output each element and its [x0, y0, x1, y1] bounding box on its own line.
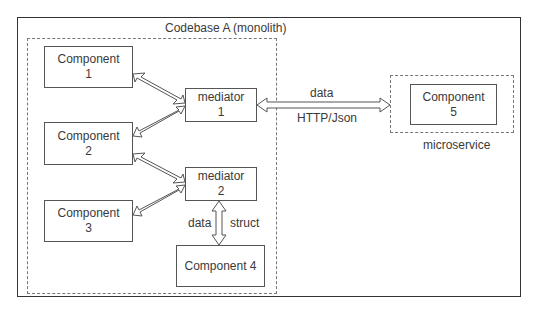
mediator-1[interactable]: mediator 1: [185, 88, 257, 122]
mediator-2-number: 2: [218, 184, 225, 199]
arrow-c2-m2: [133, 153, 185, 183]
http-link-top-label: data: [310, 86, 333, 100]
component-2[interactable]: Component 2: [44, 122, 133, 165]
component-4-name: Component 4: [184, 259, 256, 274]
component-3-name: Component: [57, 206, 119, 221]
mediator-2-name: mediator: [198, 169, 245, 184]
component-2-number: 2: [85, 144, 92, 159]
arrow-m2-c4: [212, 201, 226, 245]
m2-c4-right-label: struct: [230, 216, 259, 230]
component-3[interactable]: Component 3: [44, 200, 133, 242]
m2-c4-left-label: data: [188, 216, 211, 230]
component-5-name: Component: [422, 90, 484, 105]
component-3-number: 3: [85, 221, 92, 236]
component-4[interactable]: Component 4: [176, 245, 265, 287]
mediator-1-number: 1: [218, 105, 225, 120]
component-1-name: Component: [57, 52, 119, 67]
component-5-number: 5: [450, 105, 457, 120]
mediator-2[interactable]: mediator 2: [185, 167, 257, 201]
arrow-c1-m1: [133, 73, 185, 104]
arrow-c3-m2: [133, 185, 185, 216]
http-link-bottom-label: HTTP/Json: [297, 111, 357, 125]
mediator-1-name: mediator: [198, 90, 245, 105]
component-1-number: 1: [85, 67, 92, 82]
component-1[interactable]: Component 1: [44, 46, 133, 88]
component-2-name: Component: [57, 129, 119, 144]
arrow-m1-c5: [257, 98, 390, 112]
component-5[interactable]: Component 5: [410, 84, 497, 125]
arrow-c2-m1: [133, 106, 185, 137]
